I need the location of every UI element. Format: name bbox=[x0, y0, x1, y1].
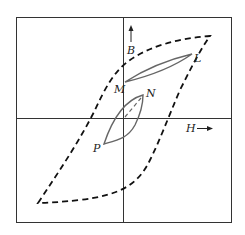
point-l-label: L bbox=[193, 52, 201, 65]
b-axis-label: B bbox=[126, 44, 135, 57]
point-p-label: P bbox=[92, 142, 101, 155]
initial-magnetization-curve bbox=[125, 98, 141, 117]
point-m-label: M bbox=[113, 83, 126, 96]
h-axis-label: H bbox=[185, 122, 196, 135]
h-arrowhead-icon bbox=[207, 126, 213, 131]
hysteresis-diagram: B H L M N P bbox=[0, 0, 245, 235]
minor-loop-ml bbox=[125, 54, 192, 82]
point-n-label: N bbox=[145, 87, 156, 100]
b-arrowhead-icon bbox=[129, 25, 134, 31]
